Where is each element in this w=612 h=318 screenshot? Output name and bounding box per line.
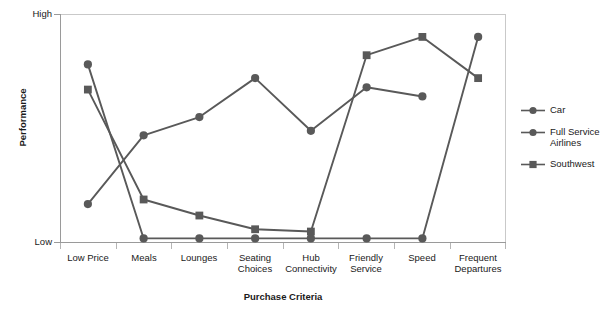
legend-label-full-service-airlines: Full Service Airlines xyxy=(550,126,612,148)
x-axis-label-hub-connectivity: Hub Connectivity xyxy=(280,252,342,274)
x-tick-0 xyxy=(60,243,61,249)
legend: Car Full Service Airlines Southwest xyxy=(520,104,612,180)
x-tick-7 xyxy=(450,243,451,249)
legend-item-car[interactable]: Car xyxy=(520,104,612,116)
y-axis-line xyxy=(60,14,61,243)
legend-item-full-service-airlines[interactable]: Full Service Airlines xyxy=(520,126,612,148)
x-axis-label-frequent-departures: Frequent Departures xyxy=(448,252,508,274)
x-tick-1 xyxy=(116,243,117,249)
y-axis-label-high: High xyxy=(16,8,52,19)
x-tick-2 xyxy=(171,243,172,249)
legend-key-full-service-airlines-icon xyxy=(520,127,546,138)
x-axis-label-low-price: Low Price xyxy=(60,252,116,263)
x-axis-label-speed: Speed xyxy=(394,252,450,263)
x-tick-5 xyxy=(338,243,339,249)
x-tick-6 xyxy=(394,243,395,249)
plot-area xyxy=(60,14,506,243)
legend-label-car: Car xyxy=(550,104,612,115)
y-axis-title: Performance xyxy=(17,58,28,178)
x-axis-label-seating-choices: Seating Choices xyxy=(227,252,283,274)
x-axis-label-lounges: Lounges xyxy=(171,252,227,263)
legend-key-car-icon xyxy=(520,105,546,116)
x-axis-label-meals: Meals xyxy=(116,252,172,263)
legend-item-southwest[interactable]: Southwest xyxy=(520,158,612,170)
line-chart: High Low Performance Low Price Meals Lou… xyxy=(0,0,612,318)
x-tick-4 xyxy=(283,243,284,249)
x-tick-8 xyxy=(505,243,506,249)
y-tick-high xyxy=(54,14,60,15)
legend-label-southwest: Southwest xyxy=(550,158,612,169)
x-axis-label-friendly-service: Friendly Service xyxy=(338,252,394,274)
x-axis-title: Purchase Criteria xyxy=(60,291,506,302)
x-tick-3 xyxy=(227,243,228,249)
y-axis-label-low: Low xyxy=(16,236,52,247)
legend-key-southwest-icon xyxy=(520,159,546,170)
